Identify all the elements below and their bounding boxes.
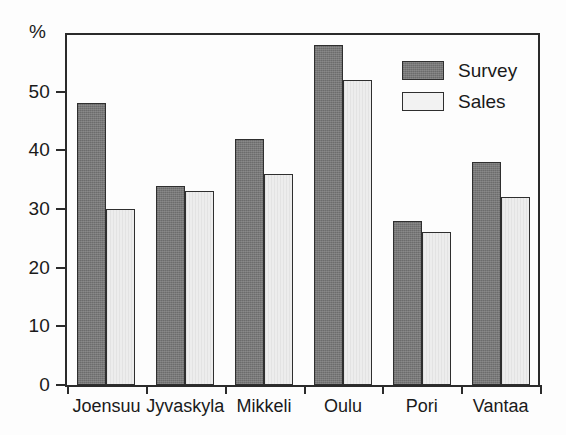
bar-sales-vantaa[interactable]: [501, 197, 530, 385]
x-axis-label-joensuu: Joensuu: [72, 396, 140, 417]
bar-sales-jyvaskyla[interactable]: [185, 191, 214, 385]
y-axis-tick: [56, 91, 66, 93]
legend-swatch-sales: [402, 92, 444, 111]
x-axis-tick: [382, 385, 384, 394]
bar-survey-oulu[interactable]: [314, 45, 343, 385]
y-axis-tick-label: 20: [0, 268, 50, 290]
bar-group: [67, 33, 146, 385]
y-axis-tick-label: 50: [0, 92, 50, 114]
bar-survey-joensuu[interactable]: [77, 103, 106, 385]
legend-item-survey[interactable]: Survey: [402, 58, 517, 83]
y-axis-tick-label: 0: [0, 385, 50, 407]
bar-group: [225, 33, 304, 385]
bar-chart-figure: % 01020304050 JoensuuJyvaskylaMikkeliOul…: [0, 0, 566, 435]
y-axis-tick: [56, 384, 66, 386]
x-axis-tick: [225, 385, 227, 394]
bar-survey-vantaa[interactable]: [472, 162, 501, 385]
y-axis-tick-label: 10: [0, 326, 50, 348]
x-axis-tick: [67, 385, 69, 394]
x-axis-tick: [461, 385, 463, 394]
x-axis-label-jyvaskyla: Jyvaskyla: [146, 396, 224, 417]
y-axis-tick: [56, 325, 66, 327]
legend-swatch-survey: [402, 61, 444, 80]
bar-sales-pori[interactable]: [422, 232, 451, 385]
bar-sales-mikkeli[interactable]: [264, 174, 293, 385]
x-axis-tick: [304, 385, 306, 394]
y-axis-tick: [56, 149, 66, 151]
y-axis-tick: [56, 267, 66, 269]
legend-item-sales[interactable]: Sales: [402, 89, 517, 114]
legend: SurveySales: [402, 58, 517, 120]
bar-group: [304, 33, 383, 385]
y-axis-tick-label: 30: [0, 209, 50, 231]
legend-label-survey: Survey: [458, 60, 517, 82]
bar-survey-jyvaskyla[interactable]: [156, 186, 185, 385]
y-axis-unit-label: %: [29, 21, 46, 43]
bar-sales-joensuu[interactable]: [106, 209, 135, 385]
bar-group: [146, 33, 225, 385]
y-axis-tick: [56, 208, 66, 210]
legend-label-sales: Sales: [458, 91, 506, 113]
bar-sales-oulu[interactable]: [343, 80, 372, 385]
x-axis-label-mikkeli: Mikkeli: [237, 396, 292, 417]
bar-survey-pori[interactable]: [393, 221, 422, 385]
x-axis-label-vantaa: Vantaa: [473, 396, 529, 417]
bar-survey-mikkeli[interactable]: [235, 139, 264, 385]
x-axis-tick: [146, 385, 148, 394]
y-axis-tick-label: 40: [0, 150, 50, 172]
x-axis-tick: [540, 385, 542, 394]
x-axis-label-pori: Pori: [406, 396, 438, 417]
x-axis-label-oulu: Oulu: [324, 396, 362, 417]
